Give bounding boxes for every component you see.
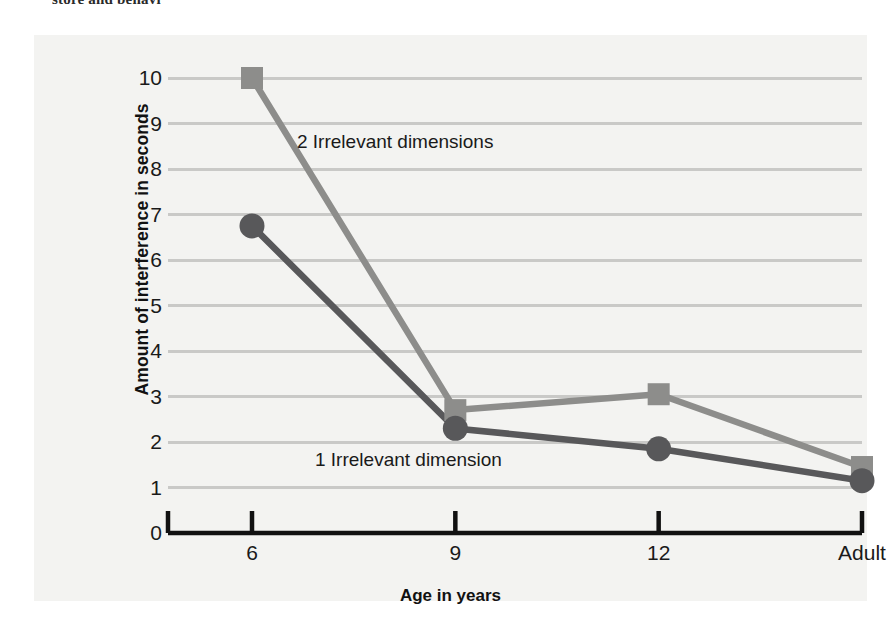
x-tick-label: Adult bbox=[807, 541, 891, 565]
series-line-one-irrelevant bbox=[252, 226, 862, 481]
data-point-two-irrelevant bbox=[648, 383, 670, 405]
x-tick-label: 9 bbox=[400, 541, 510, 565]
data-point-two-irrelevant bbox=[241, 67, 263, 89]
series-annotation-two-irrelevant: 2 Irrelevant dimensions bbox=[297, 131, 493, 153]
data-point-one-irrelevant bbox=[646, 436, 671, 461]
chart-figure: Amount of interference in seconds Age in… bbox=[34, 35, 867, 601]
data-point-one-irrelevant bbox=[240, 213, 265, 238]
x-tick-label: 12 bbox=[604, 541, 714, 565]
data-point-one-irrelevant bbox=[850, 468, 875, 493]
series-annotation-one-irrelevant: 1 Irrelevant dimension bbox=[315, 449, 502, 471]
x-tick-label: 6 bbox=[197, 541, 307, 565]
chart-svg-layer bbox=[34, 35, 867, 601]
cropped-caption-fragment: store and behavi bbox=[52, 0, 372, 5]
data-point-one-irrelevant bbox=[443, 416, 468, 441]
